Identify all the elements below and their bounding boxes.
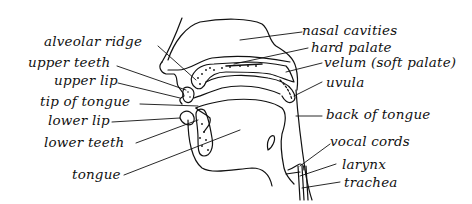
larynx-tube-left (298, 166, 300, 200)
label-alveolar-ridge: alveolar ridge (44, 35, 142, 49)
pharynx-wall (296, 90, 312, 200)
label-upper-teeth: upper teeth (28, 56, 110, 70)
label-back-of-tongue: back of tongue (326, 108, 431, 122)
label-upper-lip: upper lip (54, 74, 118, 88)
label-hard-palate: hard palate (311, 41, 392, 55)
label-larynx: larynx (342, 158, 386, 172)
velum-dashed (280, 80, 292, 100)
epiglottis (267, 136, 274, 150)
upper-lip-outline (160, 62, 184, 104)
upper-teeth-dots (187, 91, 191, 98)
label-vocal-cords: vocal cords (330, 135, 410, 149)
lower-lip-shape (180, 111, 194, 125)
mouth-roof (194, 86, 280, 98)
jaw-outline (188, 120, 272, 186)
nose-outline (162, 18, 182, 62)
label-velum: velum (soft palate) (324, 56, 456, 70)
label-trachea: trachea (344, 176, 398, 190)
larynx-tube-mid (302, 166, 304, 200)
vocal-tract-diagram: alveolar ridge upper teeth upper lip tip… (0, 0, 472, 204)
label-tongue: tongue (72, 168, 121, 182)
label-nasal-cavities: nasal cavities (302, 24, 397, 38)
leader-lines (112, 32, 340, 188)
label-lower-teeth: lower teeth (44, 136, 124, 150)
label-lower-lip: lower lip (48, 114, 110, 128)
label-tip-of-tongue: tip of tongue (40, 95, 130, 109)
label-uvula: uvula (326, 76, 364, 90)
